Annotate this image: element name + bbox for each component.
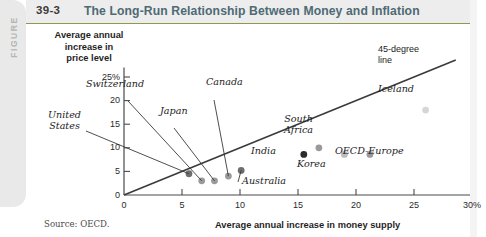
data-point [422, 107, 429, 114]
y-axis-title-line1: Average annual [55, 30, 124, 40]
y-tick-label: 10 [90, 142, 120, 152]
point-label-united-states: UnitedStates [48, 110, 81, 131]
x-tick-label: 5 [167, 200, 197, 210]
x-tick-label: 10 [225, 200, 255, 210]
source-text: Source: OECD. [44, 219, 109, 229]
source-note: Source: OECD. [44, 219, 109, 229]
figure-number: 39-3 [36, 4, 60, 16]
figure-tab-label: FIGURE [1, 0, 27, 77]
point-label-australia: Australia [242, 176, 286, 187]
x-tick-label: 15 [283, 200, 313, 210]
data-point [300, 151, 307, 158]
y-tick-label: 20 [90, 95, 120, 105]
x-tick-label: 25 [399, 200, 429, 210]
reference-line-label: 45-degree line [378, 44, 419, 65]
x-axis-title: Average annual increase in money supply [215, 220, 400, 230]
point-label-iceland: Iceland [378, 84, 414, 95]
reference-line-label-line2: line [378, 55, 392, 65]
y-axis-title: Average annual increase in price level [34, 30, 144, 65]
point-label-oecd-europe: OECD-Europe [335, 146, 404, 157]
point-label-korea: Korea [297, 159, 326, 170]
y-tick-label: 5 [90, 166, 120, 176]
point-label-canada: Canada [206, 77, 243, 88]
figure-tab: FIGURE [0, 0, 26, 207]
tick-marks [124, 77, 472, 195]
x-tick-label: 0 [109, 200, 139, 210]
reference-line-label-line1: 45-degree [378, 44, 419, 54]
y-tick-label: 25% [90, 72, 120, 82]
data-point [315, 144, 322, 151]
x-tick-label: 30% [457, 200, 486, 210]
x-tick-label: 20 [341, 200, 371, 210]
y-tick-label: 15 [90, 119, 120, 129]
y-tick-label: 0 [90, 190, 120, 200]
point-label-india: India [251, 146, 276, 157]
y-axis-title-line3: price level [66, 53, 111, 63]
point-label-japan: Japan [160, 106, 188, 117]
y-axis-title-line2: increase in [65, 42, 114, 52]
figure-title: The Long-Run Relationship Between Money … [84, 4, 420, 18]
point-label-south-africa: SouthAfrica [284, 114, 313, 135]
data-point [186, 170, 193, 177]
